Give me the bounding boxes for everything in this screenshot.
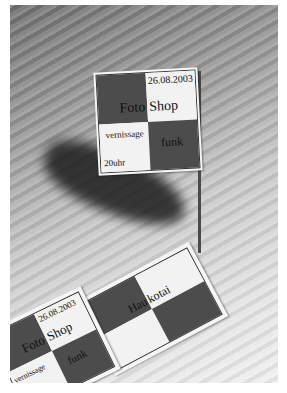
flag-square-bottom-right: funk — [148, 119, 199, 170]
card3-label-funk: funk — [65, 347, 88, 367]
photo: Foto 26.08.2003 Shop vernissage 20uhr fu… — [10, 5, 278, 383]
flag-square-top-left: Foto — [97, 73, 148, 124]
flag-square-bottom-left: vernissage 20uhr — [99, 122, 150, 173]
standing-flag-card: Foto 26.08.2003 Shop vernissage 20uhr fu… — [93, 67, 202, 175]
card3-date: 26.08.2003 — [37, 297, 78, 324]
flag-date: 26.08.2003 — [148, 73, 194, 86]
flag-label-funk: funk — [161, 134, 184, 150]
flag-square-top-right: 26.08.2003 Shop — [145, 71, 196, 122]
card3-word-left: Foto — [19, 332, 47, 357]
flag-event: vernissage — [105, 128, 143, 140]
flag-word-right: Shop — [149, 97, 179, 114]
flag-time: 20uhr — [104, 157, 125, 168]
flag-word-left: Foto — [119, 99, 145, 116]
